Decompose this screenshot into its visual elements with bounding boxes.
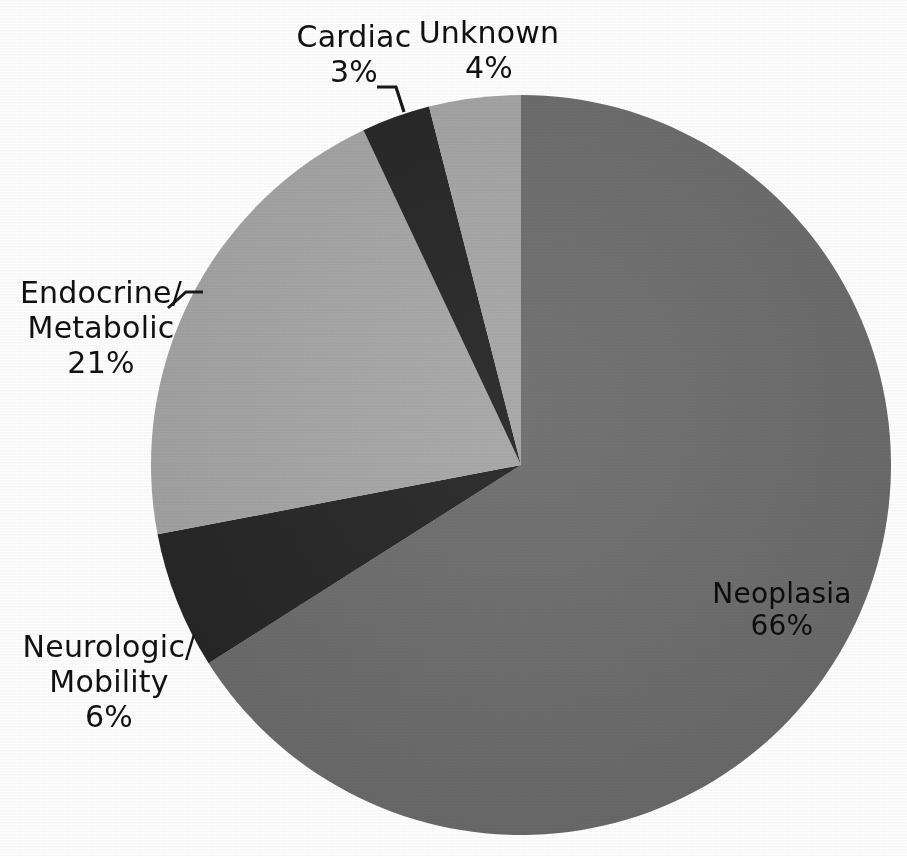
slice-label-neoplasia-pct: 66% [700,610,864,642]
slice-label-neurologic-line1: Neurologic/ [6,630,212,665]
slice-label-endocrine-line2: Metabolic [6,311,196,346]
slice-label-unknown-name: Unknown [404,16,574,51]
slice-label-cardiac-pct: 3% [286,55,422,90]
slice-label-cardiac: Cardiac 3% [286,20,422,90]
slice-label-neoplasia-name: Neoplasia [700,578,864,610]
slice-label-neoplasia: Neoplasia 66% [700,578,864,643]
slice-label-neurologic-mobility: Neurologic/ Mobility 6% [6,630,212,734]
slice-label-endocrine-pct: 21% [6,346,196,381]
pie-shading-overlay [151,95,891,835]
slice-label-unknown-pct: 4% [404,51,574,86]
leader-line-cardiac [377,87,404,112]
slice-label-endocrine-line1: Endocrine/ [6,276,196,311]
slice-label-neurologic-pct: 6% [6,700,212,735]
slice-label-neurologic-line2: Mobility [6,665,212,700]
slice-label-endocrine-metabolic: Endocrine/ Metabolic 21% [6,276,196,380]
pie-chart: Cardiac 3% Unknown 4% Endocrine/ Metabol… [0,0,907,856]
slice-label-cardiac-name: Cardiac [286,20,422,55]
slice-label-unknown: Unknown 4% [404,16,574,86]
